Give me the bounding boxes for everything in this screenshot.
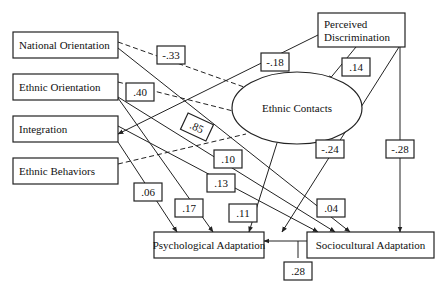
node-label: Psychological Adaptation	[153, 239, 266, 251]
coefficient-label: -.33	[157, 46, 185, 64]
node-integration: Integration	[13, 116, 118, 142]
node-label: Ethnic Behaviors	[19, 165, 95, 177]
node-psychological-adaptation: Psychological Adaptation	[153, 232, 266, 258]
coefficient-label: -.28	[386, 140, 414, 158]
coefficient-label: .04	[317, 199, 345, 217]
coefficient-label: .40	[126, 83, 154, 101]
coefficient-label: -.18	[261, 53, 289, 71]
coefficient-value: .13	[214, 177, 228, 189]
coefficient-value: .40	[133, 86, 147, 98]
coefficient-value: -.24	[321, 143, 339, 155]
coefficient-label: .14	[342, 58, 370, 76]
node-label: Discrimination	[324, 31, 390, 43]
node-sociocultural-adaptation: Sociocultural Adaptation	[307, 232, 434, 258]
node-ethnic-behaviors: Ethnic Behaviors	[13, 158, 118, 184]
coefficient-value: .28	[291, 265, 305, 277]
coefficient-value: -.28	[391, 143, 409, 155]
coefficient-value: .14	[349, 61, 363, 73]
coefficient-label: -.24	[316, 140, 344, 158]
coefficient-value: .04	[324, 202, 338, 214]
coefficient-label: .13	[207, 174, 235, 192]
coefficient-value: -.33	[162, 49, 180, 61]
node-national-orientation: National Orientation	[13, 32, 118, 58]
path-diagram: National OrientationEthnic OrientationIn…	[0, 0, 443, 297]
coefficient-value: .11	[236, 207, 249, 219]
coefficient-value: .06	[141, 186, 155, 198]
coefficient-label: .06	[134, 183, 162, 201]
node-label: Perceived	[324, 18, 368, 30]
node-label: Sociocultural Adaptation	[316, 239, 426, 251]
node-ethnic-orientation: Ethnic Orientation	[13, 74, 118, 100]
coefficient-value: .10	[221, 153, 235, 165]
coefficient-value: -.18	[266, 56, 284, 68]
coefficient-label: .17	[175, 199, 203, 217]
coefficient-label: .10	[214, 150, 242, 168]
coefficient-label: .11	[229, 204, 257, 222]
node-label: Integration	[19, 123, 68, 135]
node-label: National Orientation	[19, 39, 110, 51]
nodes-layer: National OrientationEthnic OrientationIn…	[13, 13, 434, 258]
node-ethnic-contacts: Ethnic Contacts	[232, 72, 362, 144]
coefficient-label: .85	[181, 113, 214, 141]
coefficient-label: .28	[284, 262, 312, 280]
coefficient-value: .17	[182, 202, 196, 214]
node-perceived-discrimination: PerceivedDiscrimination	[318, 13, 405, 47]
node-label: Ethnic Contacts	[262, 102, 332, 114]
node-label: Ethnic Orientation	[19, 81, 101, 93]
